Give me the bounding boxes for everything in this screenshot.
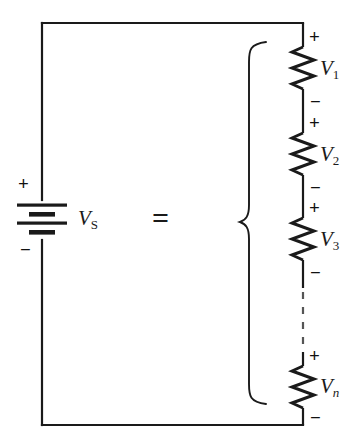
vn-label-subscript: n <box>333 385 340 400</box>
v1-minus-sign: − <box>310 92 321 111</box>
v1-label: V1 <box>320 58 339 79</box>
vn-label: Vn <box>320 376 339 397</box>
circuit-diagram: + − VS = + V1 − + V2 − + V3 − + Vn − <box>0 0 362 444</box>
vn-label-letter: V <box>320 374 333 398</box>
v1-label-subscript: 1 <box>333 67 340 82</box>
v2-label-letter: V <box>320 142 333 166</box>
v2-label: V2 <box>320 144 339 165</box>
v2-minus-sign: − <box>310 178 321 197</box>
source-label-letter: V <box>78 206 91 230</box>
v2-plus-sign: + <box>309 113 320 132</box>
battery-symbol <box>17 204 67 235</box>
vn-minus-sign: − <box>310 408 321 427</box>
v3-label: V3 <box>320 229 339 250</box>
source-plus-sign: + <box>18 174 29 193</box>
zigzag-v1 <box>292 47 314 89</box>
v3-minus-sign: − <box>310 263 321 282</box>
zigzag-vn <box>292 366 314 408</box>
v3-plus-sign: + <box>309 198 320 217</box>
source-label-subscript: S <box>91 217 98 232</box>
v3-label-subscript: 3 <box>333 238 340 253</box>
circuit-schematic-graphic <box>0 0 362 444</box>
v1-label-letter: V <box>320 56 333 80</box>
battery-plate-short-1 <box>29 212 55 217</box>
grouping-brace <box>240 42 266 404</box>
source-label: VS <box>78 208 98 229</box>
source-minus-sign: − <box>20 240 31 259</box>
battery-plate-long-1 <box>17 204 67 207</box>
vn-plus-sign: + <box>309 346 320 365</box>
battery-plate-long-2 <box>17 222 67 225</box>
equals-sign: = <box>152 203 169 233</box>
battery-plate-short-2 <box>29 230 55 235</box>
v1-plus-sign: + <box>309 27 320 46</box>
zigzag-v2 <box>292 133 314 175</box>
v3-label-letter: V <box>320 227 333 251</box>
zigzag-v3 <box>292 218 314 260</box>
v2-label-subscript: 2 <box>333 153 340 168</box>
